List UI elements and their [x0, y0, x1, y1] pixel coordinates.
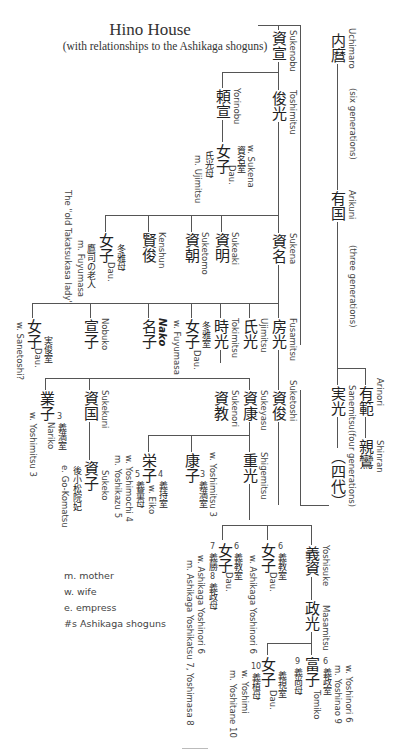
romaji: w. Yoshimitsu 3 [208, 452, 217, 517]
romaji: Dau. [106, 262, 115, 282]
note-kanji: 義政室 [322, 667, 331, 696]
romaji-sukenobu: Sukenobu [288, 30, 297, 72]
romaji: m. Fuyumasa [76, 240, 85, 297]
romaji: Dau. [224, 572, 233, 592]
note-kanji: 義満室 [57, 422, 66, 451]
person-suketomo: 資朝 [183, 232, 198, 264]
connector [191, 435, 192, 453]
note-kanji: 資名室 [236, 145, 245, 174]
connector [45, 378, 250, 379]
connector [300, 25, 301, 345]
romaji-arinori: Arinori [375, 378, 384, 406]
romaji: w. Yoshimitsu 3 [28, 412, 37, 477]
person-sukena: 資名 [270, 233, 285, 265]
note-kanji: 後小松院妃 [72, 465, 81, 512]
note-kanji: 義教室 [277, 552, 286, 581]
connector [89, 420, 90, 460]
legend-item-wife: w. wife [64, 584, 166, 600]
footer-rule [182, 748, 208, 749]
romaji: w. Ashikaga Yoshinori 6 [248, 555, 257, 654]
generations-note: (four generations) [347, 430, 356, 507]
romaji: w. Ashikaga Yoshinori 6 [196, 555, 205, 654]
note-kanji: 義満室 [198, 480, 207, 509]
romaji-shigemitsu: Shigemitsu [259, 452, 268, 500]
legend-item-shoguns: #s Ashikaga shoguns [64, 616, 166, 632]
person-sukeko: 資子 [82, 460, 97, 492]
shogun-number: 4 [158, 470, 163, 479]
person-tokimitsu: 時光 [212, 318, 227, 350]
person-sanetoshi-wife: 女子 [25, 318, 40, 350]
romaji: Nariko [46, 422, 55, 449]
person-fusamitsu: 房光 [270, 318, 285, 350]
person-arikuni: 有国 [329, 190, 344, 222]
romaji: m. Yoshinao 9 [333, 665, 342, 724]
romaji-sukeko: Sukeko [100, 470, 109, 500]
romaji-sukena: Sukena [288, 233, 297, 264]
romaji-suketomo: Suketomo [200, 232, 209, 275]
romaji: w. Yoshimi [240, 670, 249, 714]
romaji-uchimaro: Uchimaro [347, 28, 356, 69]
legend-item-empress: e. empress [64, 600, 166, 616]
person-fuyumasa-wife: 女子 [183, 318, 198, 350]
person-shinran: 親鸞 [357, 438, 372, 470]
shogun-number: 6 [323, 657, 328, 666]
note-kanji: 義持室 [158, 480, 167, 509]
romaji: m. Ashikaga Yoshikatsu 7, Yoshimasa 8 [185, 560, 194, 726]
romaji-masamitsu: Masamitsu [321, 605, 330, 651]
note-kanji: 義量母 [135, 480, 144, 509]
note-kanji: 義視室 [277, 670, 286, 699]
connector [258, 25, 300, 26]
connector [337, 368, 365, 369]
shogun-number: 8 [210, 572, 215, 581]
romaji: w. Yoshinori 6 [344, 665, 353, 723]
romaji: The "old Takatsukasa lady" [63, 190, 72, 304]
person-yoshisuke: 義資 [303, 545, 318, 577]
romaji-sukeaki: Sukeaki [230, 232, 239, 265]
shogun-number: 3 [57, 412, 62, 421]
romaji-arikuni: Arikuni [347, 190, 356, 219]
connector [337, 55, 338, 495]
person-arinori: 有範 [357, 385, 372, 417]
note-kanji: 冬雅母 [116, 243, 125, 272]
person-sukena-daughter: 女子 [97, 232, 112, 264]
person-sukenori: 資教 [212, 390, 227, 422]
romaji: Dau. [227, 165, 236, 185]
person-sukekuni: 資国 [82, 390, 97, 422]
romaji-kenshun: Kenshun [157, 232, 166, 268]
shogun-number: 10 [251, 662, 261, 671]
person-nobuko: 宣子 [82, 318, 97, 350]
romaji-sukeyasu: Sukeyasu [259, 390, 268, 431]
romaji-nobuko: Nobuko [100, 318, 109, 350]
romaji: w. Sanetoshi? [15, 322, 24, 380]
romaji: m. Yoshikazu 5 [113, 455, 122, 518]
connector [300, 390, 301, 505]
connector [90, 303, 91, 318]
note-kanji: 実俊室 [43, 335, 52, 364]
note-kanji: 鷹司の老人 [86, 243, 95, 290]
shogun-number: 6 [278, 542, 283, 551]
note-kanji: 義尚母 [293, 667, 302, 696]
connector [148, 435, 249, 436]
note-kanji: 義教室 [233, 552, 242, 581]
romaji-toshimitsu: Toshimitsu [288, 90, 297, 135]
shogun-number: 9 [295, 657, 300, 666]
romaji-tokimitsu: Tokimitsu [230, 318, 239, 358]
person-yoshimi-wife: 女子 [259, 656, 274, 688]
generations-note: (six generations) [348, 88, 357, 160]
person-ujimitsu: 氏光 [241, 318, 256, 350]
person-kenshun: 賢俊 [140, 232, 155, 264]
connector [267, 643, 311, 644]
connector [222, 525, 223, 540]
person-nariko: 業子 [38, 390, 53, 422]
romaji-sukekuni: Sukekuni [100, 390, 109, 428]
note-kanji: 義政母 [208, 582, 217, 611]
shogun-number: 5 [135, 470, 140, 479]
generations-note: (three generations) [348, 245, 357, 327]
romaji: Dau. [268, 572, 277, 592]
romaji: m. Yoshitane 10 [228, 670, 237, 738]
person-sukenobu: 資宣 [270, 30, 285, 62]
romaji-shinran: Shinran [375, 440, 384, 473]
romaji-yorinobu: Yorinobu [232, 88, 241, 125]
person-toshimitsu: 俊光 [270, 90, 285, 122]
note-kanji: 氏光母 [204, 150, 213, 179]
